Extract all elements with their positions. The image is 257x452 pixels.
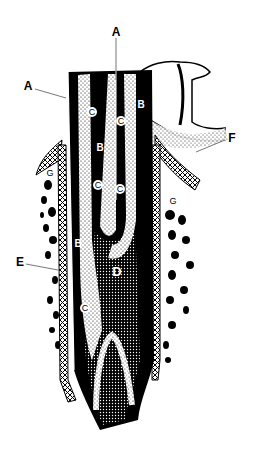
label-g-1: G — [45, 168, 55, 178]
alveolar-bone-right — [163, 210, 194, 363]
label-d: D — [112, 267, 121, 277]
label-a-left: A — [24, 80, 33, 92]
alveolar-bone-left — [40, 180, 61, 349]
label-c-5: C — [80, 303, 90, 313]
label-c-1: C — [87, 107, 97, 117]
label-e: E — [16, 256, 24, 268]
label-b-1: B — [137, 100, 144, 110]
tooth-root-diagram — [0, 0, 257, 452]
label-c-3: C — [93, 180, 103, 190]
label-c-2: C — [116, 116, 126, 126]
label-a-top: A — [112, 26, 121, 38]
label-f: F — [228, 132, 235, 144]
label-c-4: C — [115, 184, 125, 194]
label-b-3: B — [74, 239, 81, 249]
gingiva-top — [140, 61, 228, 148]
label-g-2: G — [168, 196, 178, 206]
label-b-2: B — [96, 143, 103, 153]
